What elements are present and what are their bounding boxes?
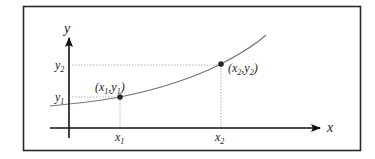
- x-axis-label: x: [326, 120, 334, 135]
- y-axis-label: y: [62, 21, 71, 36]
- diagram-frame: [24, 7, 361, 151]
- point-2-label: (x2,y2): [228, 61, 258, 77]
- point-1-label: (x1,y1): [95, 80, 125, 96]
- y1-tick-label: y1: [54, 90, 64, 106]
- point-2-marker: [218, 61, 223, 66]
- x1-tick-label: x1: [114, 130, 124, 146]
- x2-tick-label: x2: [214, 130, 224, 146]
- y2-tick-label: y2: [54, 58, 64, 74]
- function-graph-diagram: y x y2 y1 x1 x2 (x1,y1) (x2,y2): [0, 0, 375, 159]
